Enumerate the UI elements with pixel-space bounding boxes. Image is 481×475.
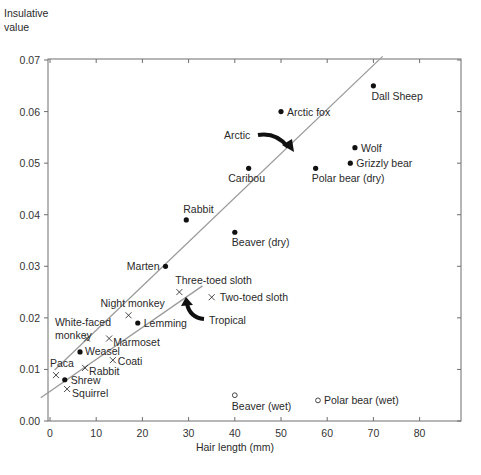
point-label: Coati: [118, 355, 143, 367]
x-tick-label: 40: [229, 427, 241, 439]
data-point: Dall Sheep: [371, 83, 423, 102]
data-point: Arctic fox: [278, 106, 331, 118]
x-tick-label: 70: [368, 427, 380, 439]
data-point: Wolf: [352, 142, 381, 154]
filled-circle-marker-icon: [77, 349, 82, 354]
y-axis-title-line2: value: [4, 21, 29, 33]
filled-circle-marker-icon: [348, 161, 353, 166]
x-marker-icon: [106, 335, 112, 341]
x-tick-label: 50: [275, 427, 287, 439]
x-tick-label: 0: [47, 427, 53, 439]
y-tick-label: 0.07: [20, 54, 41, 66]
x-tick-label: 80: [414, 427, 426, 439]
filled-circle-marker-icon: [163, 264, 168, 269]
data-point: Polar bear (wet): [316, 394, 399, 406]
filled-circle-marker-icon: [246, 166, 251, 171]
point-label: Arctic fox: [287, 106, 331, 118]
data-point: Beaver (dry): [232, 230, 290, 249]
filled-circle-marker-icon: [62, 377, 67, 382]
filled-circle-marker-icon: [371, 83, 376, 88]
filled-circle-marker-icon: [135, 320, 140, 325]
x-tick-label: 30: [183, 427, 195, 439]
point-label: Caribou: [228, 172, 265, 184]
x-marker-icon: [209, 294, 215, 300]
data-point: Caribou: [228, 166, 265, 185]
data-point: Beaver (wet): [232, 393, 292, 412]
x-marker-icon: [176, 289, 182, 295]
y-tick-label: 0.00: [20, 415, 41, 427]
point-label: Paca: [50, 357, 74, 369]
point-label: Night monkey: [101, 297, 166, 309]
point-label: Two-toed sloth: [220, 291, 288, 303]
filled-circle-marker-icon: [232, 230, 237, 235]
y-tick-label: 0.05: [20, 157, 41, 169]
x-tick-label: 60: [321, 427, 333, 439]
data-point: Rabbit: [183, 203, 213, 223]
data-point: Grizzly bear: [348, 157, 413, 169]
y-tick-label: 0.06: [20, 106, 41, 118]
tropical-arrow-icon: [187, 304, 204, 319]
data-point: White-facedmonkey: [55, 316, 111, 341]
point-label: Rabbit: [89, 365, 119, 377]
point-label: Polar bear (dry): [312, 172, 385, 184]
y-tick-label: 0.02: [20, 312, 41, 324]
point-label: Wolf: [361, 142, 382, 154]
x-tick-label: 10: [90, 427, 102, 439]
point-label: Marmoset: [113, 336, 160, 348]
filled-circle-marker-icon: [313, 166, 318, 171]
data-point: Lemming: [135, 317, 187, 329]
x-marker-icon: [126, 312, 132, 318]
point-label: Grizzly bear: [356, 157, 413, 169]
point-label: Marten: [127, 260, 160, 272]
point-label: White-faced: [55, 316, 111, 328]
x-axis-title: Hair length (mm): [196, 441, 274, 453]
point-label: Dall Sheep: [371, 90, 423, 102]
x-marker-icon: [110, 357, 116, 363]
scatter-chart: Insulative value 010203040506070800.000.…: [0, 0, 481, 475]
open-circle-marker-icon: [232, 393, 237, 398]
point-label: monkey: [55, 329, 93, 341]
arctic-label: Arctic: [224, 129, 250, 141]
point-label: Beaver (dry): [232, 236, 290, 248]
open-circle-marker-icon: [316, 398, 321, 403]
tropical-arrowhead-icon: [181, 297, 193, 306]
tropical-label: Tropical: [209, 314, 246, 326]
data-point: Night monkey: [101, 297, 166, 318]
y-axis-title-line1: Insulative: [4, 7, 49, 19]
data-point: Marmoset: [106, 335, 160, 348]
x-marker-icon: [53, 372, 59, 378]
filled-circle-marker-icon: [352, 145, 357, 150]
point-label: Rabbit: [183, 203, 213, 215]
point-label: Squirrel: [72, 387, 108, 399]
filled-circle-marker-icon: [184, 217, 189, 222]
y-tick-label: 0.01: [20, 363, 41, 375]
point-label: Lemming: [144, 317, 187, 329]
arctic-annotation: Arctic: [224, 129, 294, 152]
data-point: Squirrel: [64, 386, 108, 399]
y-tick-label: 0.03: [20, 260, 41, 272]
point-label: Polar bear (wet): [324, 394, 399, 406]
data-point: Marten: [127, 260, 168, 272]
filled-circle-marker-icon: [278, 109, 283, 114]
data-point: Two-toed sloth: [209, 291, 288, 303]
y-tick-label: 0.04: [20, 209, 41, 221]
x-marker-icon: [64, 386, 70, 392]
point-label: Three-toed sloth: [175, 274, 252, 286]
x-tick-label: 20: [137, 427, 149, 439]
point-label: Beaver (wet): [232, 400, 292, 412]
